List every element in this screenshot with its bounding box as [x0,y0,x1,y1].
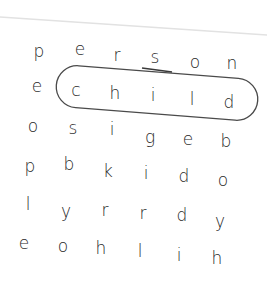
circle-highlight-child [0,0,267,304]
